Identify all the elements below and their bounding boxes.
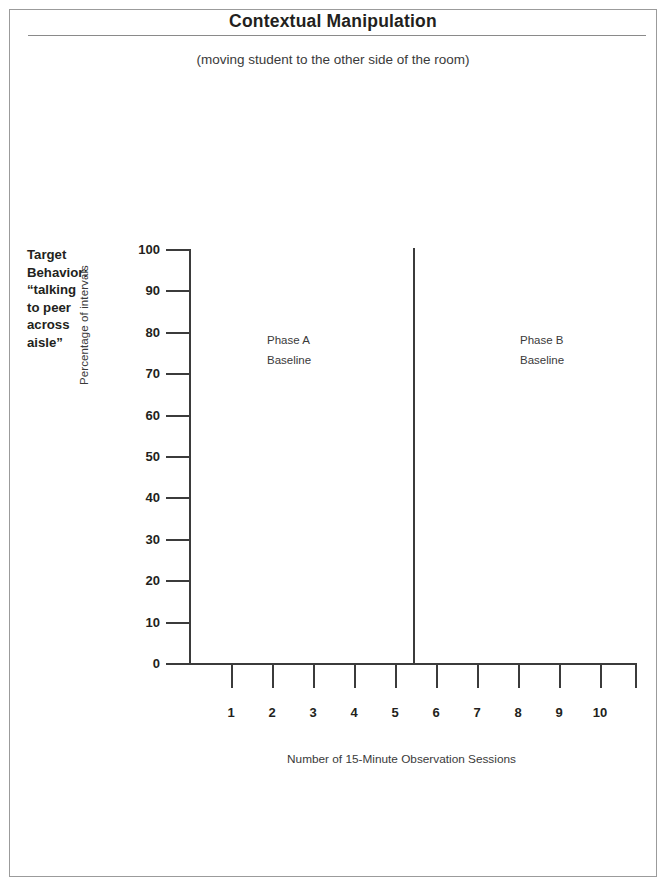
- x-axis-tick-label: 10: [585, 705, 615, 720]
- y-axis-tick: [166, 580, 189, 582]
- y-axis-tick: [166, 539, 189, 541]
- x-axis-tick-label: 2: [257, 705, 287, 720]
- y-axis-tick: [166, 497, 189, 499]
- y-axis-tick-label: 80: [116, 325, 160, 340]
- x-axis-tick: [354, 664, 356, 688]
- x-axis-tick: [477, 664, 479, 688]
- target-behavior-line: aisle”: [27, 334, 113, 352]
- x-axis-tick: [313, 664, 315, 688]
- x-axis-tick-label: 6: [421, 705, 451, 720]
- y-axis-tick: [166, 622, 189, 624]
- target-behavior-line: across: [27, 316, 113, 334]
- x-axis-tick: [559, 664, 561, 688]
- target-behavior-line: Target: [27, 246, 113, 264]
- phase-a-annotation: Phase ABaseline: [267, 330, 311, 370]
- phase-a-annotation-line: Phase A: [267, 330, 311, 350]
- y-axis-tick: [166, 332, 189, 334]
- y-axis-tick-label: 10: [116, 615, 160, 630]
- x-axis-tick: [436, 664, 438, 688]
- y-axis-tick-label: 90: [116, 283, 160, 298]
- x-axis-tick-label: 8: [503, 705, 533, 720]
- x-axis-tick-label: 4: [339, 705, 369, 720]
- x-axis-tick: [231, 664, 233, 688]
- y-axis-tick-label: 100: [116, 242, 160, 257]
- y-axis-tick-label: 20: [116, 573, 160, 588]
- target-behavior-line: Behavior:: [27, 264, 113, 282]
- x-axis-tick: [395, 664, 397, 688]
- phase-b-annotation-line: Baseline: [520, 350, 564, 370]
- page-title: Contextual Manipulation: [9, 11, 657, 32]
- y-axis-tick-label: 40: [116, 490, 160, 505]
- y-axis-tick-label: 60: [116, 408, 160, 423]
- x-axis-line: [166, 663, 637, 665]
- page-subtitle: (moving student to the other side of the…: [9, 52, 657, 67]
- x-axis-end-tick: [635, 664, 637, 688]
- target-behavior-label: TargetBehavior:“talkingto peeracrossaisl…: [27, 246, 113, 352]
- y-axis-tick: [166, 290, 189, 292]
- phase-change-line: [413, 248, 415, 665]
- y-axis-tick-label: 30: [116, 532, 160, 547]
- page-border-frame: [9, 9, 657, 877]
- x-axis-tick-label: 7: [462, 705, 492, 720]
- y-axis-tick: [166, 456, 189, 458]
- y-axis-tick-label: 70: [116, 366, 160, 381]
- y-axis-line: [189, 249, 191, 665]
- x-axis-tick: [600, 664, 602, 688]
- phase-a-annotation-line: Baseline: [267, 350, 311, 370]
- y-axis-tick: [166, 663, 189, 665]
- x-axis-tick: [518, 664, 520, 688]
- target-behavior-line: “talking: [27, 281, 113, 299]
- phase-b-annotation-line: Phase B: [520, 330, 564, 350]
- x-axis-tick-label: 1: [216, 705, 246, 720]
- x-axis-tick: [272, 664, 274, 688]
- y-axis-tick: [166, 249, 189, 251]
- x-axis-title: Number of 15-Minute Observation Sessions: [166, 752, 637, 766]
- y-axis-tick: [166, 373, 189, 375]
- target-behavior-line: to peer: [27, 299, 113, 317]
- graph-page: Contextual Manipulation (moving student …: [0, 0, 667, 890]
- x-axis-tick-label: 5: [380, 705, 410, 720]
- phase-b-annotation: Phase BBaseline: [520, 330, 564, 370]
- x-axis-tick-label: 9: [544, 705, 574, 720]
- y-axis-tick: [166, 415, 189, 417]
- y-axis-tick-label: 50: [116, 449, 160, 464]
- y-axis-tick-label: 0: [116, 656, 160, 671]
- y-axis-title: Percentage of intervals: [78, 225, 90, 385]
- x-axis-tick-label: 3: [298, 705, 328, 720]
- title-divider-rule: [28, 35, 646, 36]
